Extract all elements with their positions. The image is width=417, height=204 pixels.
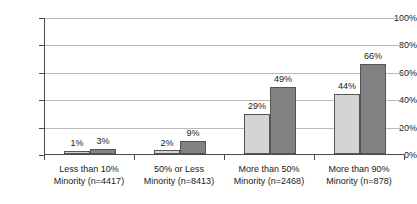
bar-series1-cat3[interactable] <box>244 114 270 154</box>
category-label-4-line2: Minority (n=878) <box>303 175 415 187</box>
bar-series2-cat3[interactable] <box>270 87 296 154</box>
bar-value-series2-cat2: 9% <box>173 129 213 138</box>
category-label-4-line1: More than 90% <box>303 163 415 175</box>
bar-group-2: 2% 9% <box>135 17 225 154</box>
bar-series2-cat4[interactable] <box>360 64 386 154</box>
bar-chart: 100% 80% 60% 40% 20% 0% 1% 3% 2% 9% <box>0 0 417 204</box>
bar-series1-cat2[interactable] <box>154 150 180 154</box>
x-axis-tick-4 <box>404 155 405 160</box>
x-axis-tick-3 <box>314 155 315 160</box>
plot-area: 1% 3% 2% 9% 29% 49% 44% 66% <box>44 18 404 155</box>
x-axis-tick-1 <box>134 155 135 160</box>
bar-value-series2-cat4: 66% <box>353 52 393 61</box>
bar-series1-cat1[interactable] <box>64 151 90 154</box>
bar-group-4: 44% 66% <box>315 17 405 154</box>
bar-value-series2-cat1: 3% <box>83 137 123 146</box>
bar-group-1: 1% 3% <box>45 17 135 154</box>
bar-value-series2-cat3: 49% <box>263 75 303 84</box>
bar-series2-cat2[interactable] <box>180 141 206 154</box>
bar-series1-cat4[interactable] <box>334 94 360 154</box>
x-axis-tick-0 <box>44 155 45 160</box>
x-axis-tick-2 <box>224 155 225 160</box>
bar-group-3: 29% 49% <box>225 17 315 154</box>
category-label-4: More than 90% Minority (n=878) <box>303 163 415 187</box>
bar-series2-cat1[interactable] <box>90 149 116 154</box>
